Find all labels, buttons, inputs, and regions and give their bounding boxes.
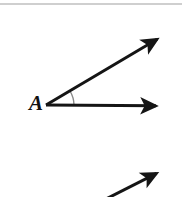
vertex-label-a: A — [26, 91, 46, 115]
horizontal-ray — [46, 105, 156, 106]
upper-ray — [46, 39, 157, 105]
angle-figure: A — [0, 0, 182, 197]
angle-arc-icon — [70, 91, 74, 105]
lower-partial-ray — [104, 173, 157, 197]
